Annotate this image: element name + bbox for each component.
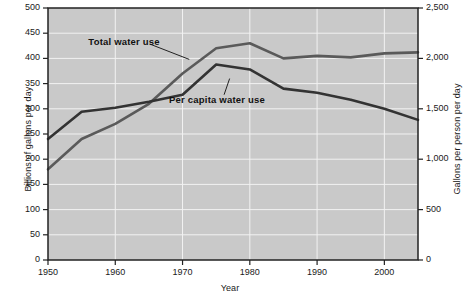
tick-label-x: 1990 [297,267,337,277]
tick-label-left: 100 [0,204,40,214]
tick-label-left: 350 [0,78,40,88]
series-label-per-capita-water-use: Per capita water use [169,94,265,105]
tick-label-right: 2,500 [426,2,466,12]
tick-label-x: 1970 [163,267,203,277]
tick-label-left: 50 [0,229,40,239]
tick-label-left: 400 [0,52,40,62]
tick-label-x: 1980 [230,267,270,277]
right-axis-title: Gallons per person per day [452,54,462,224]
tick-label-left: 0 [0,254,40,264]
tick-label-right: 2,000 [426,52,466,62]
tick-label-right: 1,500 [426,103,466,113]
tick-label-left: 200 [0,153,40,163]
tick-label-left: 300 [0,103,40,113]
tick-label-x: 2000 [364,267,404,277]
tick-label-right: 0 [426,254,466,264]
tick-label-left: 450 [0,27,40,37]
tick-label-left: 150 [0,178,40,188]
water-use-line-chart: Billions of gallons per day Gallons per … [0,0,473,299]
x-axis-title: Year [190,283,270,293]
tick-label-left: 250 [0,128,40,138]
tick-label-left: 500 [0,2,40,12]
tick-label-right: 500 [426,204,466,214]
tick-label-x: 1960 [95,267,135,277]
series-label-total-water-use: Total water use [88,36,159,47]
chart-canvas [0,0,473,299]
tick-label-x: 1950 [28,267,68,277]
tick-label-right: 1,000 [426,153,466,163]
